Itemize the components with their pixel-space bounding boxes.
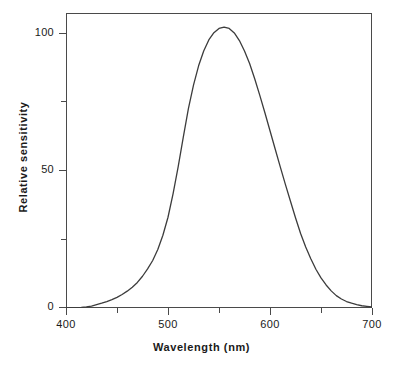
x-tick-minor-450 [117, 308, 118, 313]
x-tick-label-700: 700 [352, 318, 392, 330]
x-tick-minor-550 [219, 308, 220, 313]
x-tick-minor-650 [321, 308, 322, 313]
y-tick-label-100: 100 [14, 26, 54, 38]
x-tick-label-600: 600 [250, 318, 290, 330]
y-tick-50 [59, 170, 66, 171]
x-tick-400 [66, 308, 67, 315]
x-tick-label-500: 500 [148, 318, 188, 330]
curve-polyline [66, 27, 372, 308]
chart-page: 100 50 0 400 500 600 700 Wavelength (nm)… [0, 0, 403, 369]
y-tick-100 [59, 33, 66, 34]
photopic-sensitivity-curve [66, 13, 372, 308]
y-tick-0 [59, 307, 66, 308]
x-tick-600 [270, 308, 271, 315]
x-axis-title: Wavelength (nm) [0, 341, 403, 353]
y-tick-minor-25 [61, 239, 66, 240]
y-tick-label-0: 0 [14, 300, 54, 312]
y-tick-minor-75 [61, 101, 66, 102]
x-tick-500 [168, 308, 169, 315]
x-tick-700 [372, 308, 373, 315]
x-tick-label-400: 400 [46, 318, 86, 330]
y-axis-title: Relative sensitivity [17, 57, 29, 257]
